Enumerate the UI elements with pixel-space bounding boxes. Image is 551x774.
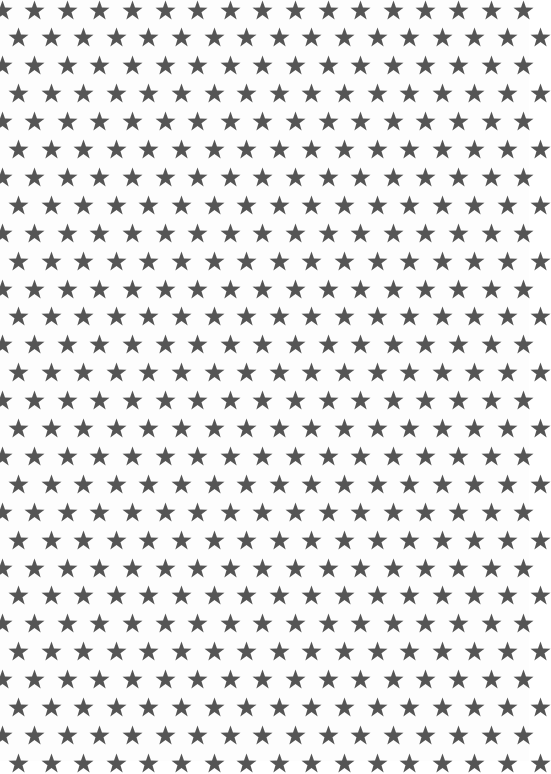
star-icon [399, 530, 420, 551]
star-icon [530, 697, 551, 718]
star-icon [318, 279, 339, 300]
star-icon [89, 446, 110, 467]
star-icon [138, 27, 159, 48]
star-icon [57, 390, 78, 411]
star-icon [530, 753, 551, 774]
star-icon [530, 195, 551, 216]
star-icon [73, 27, 94, 48]
star-icon [350, 279, 371, 300]
star-icon [89, 0, 110, 21]
star-icon [171, 697, 192, 718]
star-icon [8, 697, 29, 718]
star-icon [122, 223, 143, 244]
star-icon [301, 753, 322, 774]
star-icon [155, 613, 176, 634]
star-icon [513, 613, 534, 634]
star-icon [285, 669, 306, 690]
star-icon [318, 390, 339, 411]
star-icon [464, 139, 485, 160]
star-icon [497, 641, 518, 662]
star-icon [122, 55, 143, 76]
star-icon [432, 530, 453, 551]
star-icon [481, 223, 502, 244]
star-icon [448, 279, 469, 300]
star-icon [204, 697, 225, 718]
star-icon [171, 362, 192, 383]
star-icon [220, 167, 241, 188]
star-icon [432, 641, 453, 662]
star-icon [187, 446, 208, 467]
star-icon [252, 279, 273, 300]
star-icon [448, 0, 469, 21]
star-icon [399, 83, 420, 104]
star-icon [8, 139, 29, 160]
star-icon [383, 558, 404, 579]
star-icon [155, 279, 176, 300]
star-icon [464, 27, 485, 48]
star-icon [73, 753, 94, 774]
star-icon [73, 306, 94, 327]
star-icon [89, 613, 110, 634]
star-icon [318, 613, 339, 634]
star-icon [415, 55, 436, 76]
star-icon [301, 139, 322, 160]
star-icon [350, 725, 371, 746]
star-icon [399, 251, 420, 272]
star-icon [432, 418, 453, 439]
star-icon [24, 390, 45, 411]
star-icon [383, 502, 404, 523]
star-icon [171, 530, 192, 551]
star-icon [41, 530, 62, 551]
star-icon [73, 362, 94, 383]
star-icon [0, 334, 13, 355]
star-icon [236, 418, 257, 439]
star-icon [334, 753, 355, 774]
star-icon [481, 446, 502, 467]
star-icon [432, 697, 453, 718]
star-icon [155, 725, 176, 746]
star-icon [481, 55, 502, 76]
star-icon [399, 418, 420, 439]
star-icon [415, 725, 436, 746]
star-icon [236, 83, 257, 104]
star-icon [383, 0, 404, 21]
star-icon [367, 418, 388, 439]
star-icon [269, 753, 290, 774]
star-icon [106, 641, 127, 662]
star-icon [497, 251, 518, 272]
star-icon [367, 585, 388, 606]
star-icon [8, 530, 29, 551]
star-icon [57, 111, 78, 132]
star-icon [89, 558, 110, 579]
star-icon [0, 669, 13, 690]
star-icon [24, 167, 45, 188]
star-icon [301, 362, 322, 383]
star-icon [41, 362, 62, 383]
star-icon [301, 418, 322, 439]
star-icon [73, 530, 94, 551]
star-icon [497, 585, 518, 606]
star-icon [269, 585, 290, 606]
star-icon [204, 306, 225, 327]
star-icon [106, 753, 127, 774]
star-icon [24, 223, 45, 244]
star-icon [497, 474, 518, 495]
star-icon [464, 306, 485, 327]
star-icon [252, 613, 273, 634]
star-icon [252, 223, 273, 244]
star-icon [0, 0, 13, 21]
star-icon [8, 306, 29, 327]
star-icon [220, 502, 241, 523]
star-icon [301, 641, 322, 662]
star-icon [155, 558, 176, 579]
star-icon [350, 669, 371, 690]
star-icon [530, 530, 551, 551]
star-icon [334, 585, 355, 606]
star-icon [269, 27, 290, 48]
star-icon [8, 251, 29, 272]
star-icon [367, 753, 388, 774]
star-icon [122, 669, 143, 690]
star-icon [187, 279, 208, 300]
star-icon [285, 223, 306, 244]
star-icon [269, 641, 290, 662]
